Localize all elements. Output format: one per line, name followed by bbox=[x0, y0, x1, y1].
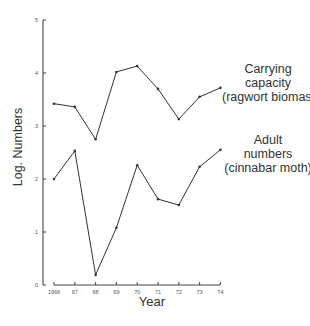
series-lines bbox=[53, 65, 222, 276]
data-point bbox=[53, 102, 56, 105]
carrying-capacity-line bbox=[54, 66, 220, 139]
data-point bbox=[136, 65, 139, 68]
data-point bbox=[178, 118, 181, 121]
data-point bbox=[115, 226, 118, 229]
data-point bbox=[94, 274, 97, 277]
y-tick-label: 0 bbox=[35, 282, 38, 288]
data-point bbox=[198, 166, 201, 169]
data-point bbox=[53, 178, 56, 181]
series-label-carrying-capacity: Carrying capacity (ragwort biomas) bbox=[222, 62, 310, 104]
data-point bbox=[178, 204, 181, 207]
data-point bbox=[157, 88, 160, 91]
x-axis-label: Year bbox=[112, 294, 192, 309]
y-tick-label: 2 bbox=[35, 176, 38, 182]
data-point bbox=[115, 71, 118, 74]
y-tick-label: 4 bbox=[35, 70, 38, 76]
x-tick-label: 74 bbox=[217, 289, 223, 295]
series-label-adult-numbers: Adult numbers (cinnabar moth) bbox=[222, 133, 310, 175]
y-tick-label: 1 bbox=[35, 229, 38, 235]
x-tick-label: 68 bbox=[93, 289, 99, 295]
data-point bbox=[157, 198, 160, 201]
x-tick-label: 73 bbox=[197, 289, 203, 295]
data-point bbox=[198, 96, 201, 99]
y-axis-label: Log. Numbers bbox=[11, 107, 25, 187]
data-point bbox=[136, 164, 139, 167]
data-point bbox=[74, 150, 77, 153]
data-point bbox=[94, 138, 97, 141]
y-tick-label: 3 bbox=[35, 123, 38, 129]
data-point bbox=[74, 106, 77, 109]
y-tick-label: 5 bbox=[35, 17, 38, 23]
axes: 01234519666768697071727374 bbox=[35, 17, 224, 295]
x-tick-label: 67 bbox=[72, 289, 78, 295]
x-tick-label: 1966 bbox=[48, 289, 60, 295]
adult-numbers-line bbox=[54, 150, 220, 275]
